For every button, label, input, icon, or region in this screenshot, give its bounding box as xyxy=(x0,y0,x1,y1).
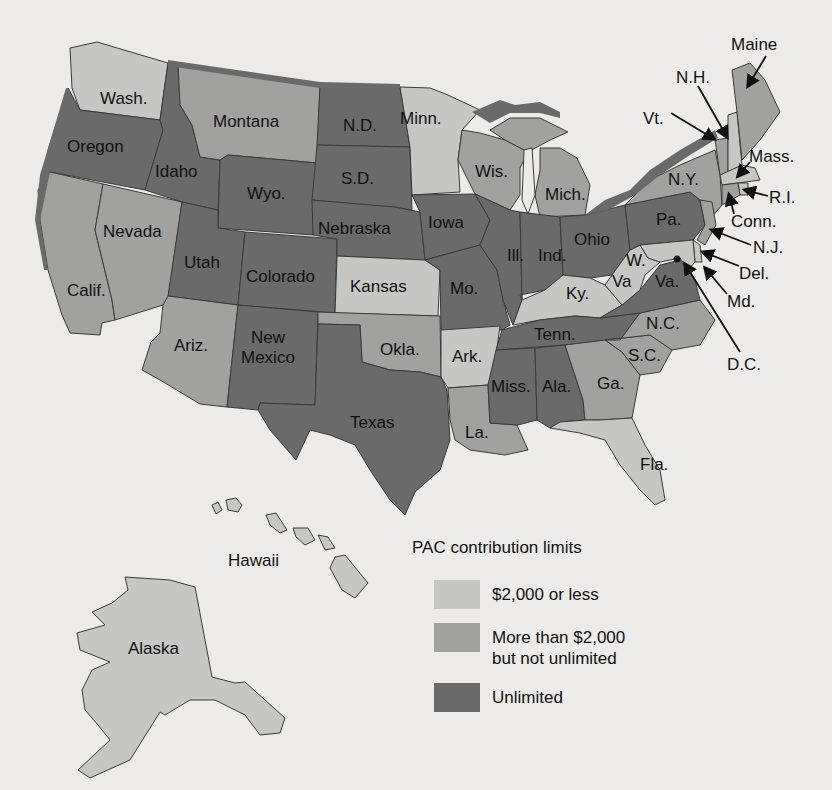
label-dc: D.C. xyxy=(727,355,761,374)
arrow-nj xyxy=(712,230,751,245)
swatch-mid xyxy=(434,623,480,652)
label-wash: Wash. xyxy=(100,89,148,108)
legend-item-low: $2,000 or less xyxy=(434,580,625,609)
label-maine: Maine xyxy=(731,35,777,54)
label-nj: N.J. xyxy=(753,238,783,257)
label-nc: N.C. xyxy=(646,314,680,333)
legend-label-low: $2,000 or less xyxy=(492,580,599,605)
legend-label-mid: More than $2,000 but not unlimited xyxy=(492,623,625,669)
label-ind: Ind. xyxy=(538,246,566,265)
label-mo: Mo. xyxy=(450,279,478,298)
label-del: Del. xyxy=(739,264,769,283)
label-okla: Okla. xyxy=(380,340,420,359)
label-tenn: Tenn. xyxy=(534,325,576,344)
label-conn: Conn. xyxy=(731,212,776,231)
label-wyo: Wyo. xyxy=(247,184,286,203)
state-washington[interactable] xyxy=(70,42,168,120)
label-utah: Utah xyxy=(184,253,220,272)
label-sc: S.C. xyxy=(628,346,661,365)
label-iowa: Iowa xyxy=(428,213,464,232)
label-nevada: Nevada xyxy=(103,222,162,241)
swatch-low xyxy=(434,580,480,609)
label-colorado: Colorado xyxy=(246,267,315,286)
label-nm-1: New xyxy=(251,328,286,347)
state-alaska[interactable] xyxy=(77,577,285,778)
label-nm-2: Mexico xyxy=(241,348,295,367)
arrow-del xyxy=(703,252,739,266)
label-idaho: Idaho xyxy=(155,162,198,181)
label-miss: Miss. xyxy=(491,377,531,396)
label-oregon: Oregon xyxy=(67,137,124,156)
legend-title: PAC contribution limits xyxy=(412,538,625,558)
dc-marker xyxy=(674,256,681,263)
label-ri: R.I. xyxy=(769,188,795,207)
label-ny: N.Y. xyxy=(668,170,699,189)
label-ky: Ky. xyxy=(566,284,589,303)
legend-label-unlimited: Unlimited xyxy=(492,683,563,708)
legend-item-mid: More than $2,000 but not unlimited xyxy=(434,623,625,669)
label-texas: Texas xyxy=(350,413,394,432)
label-vt: Vt. xyxy=(643,109,664,128)
label-montana: Montana xyxy=(213,112,280,131)
arrow-vt xyxy=(671,113,714,139)
label-nebraska: Nebraska xyxy=(318,219,391,238)
label-md: Md. xyxy=(727,292,755,311)
legend-item-unlimited: Unlimited xyxy=(434,683,625,712)
label-wis: Wis. xyxy=(475,162,508,181)
label-nh: N.H. xyxy=(676,68,710,87)
state-hawaii[interactable] xyxy=(212,498,368,598)
label-wva-1: W. xyxy=(626,251,646,270)
label-mich: Mich. xyxy=(545,185,586,204)
arrow-md xyxy=(705,268,727,294)
label-nd: N.D. xyxy=(343,116,377,135)
label-va: Va. xyxy=(655,272,679,291)
label-pa: Pa. xyxy=(656,210,682,229)
lake-michigan xyxy=(522,148,535,214)
label-wva-2: Va xyxy=(612,272,632,291)
label-mass: Mass. xyxy=(749,147,794,166)
swatch-unlimited xyxy=(434,683,480,712)
label-hawaii: Hawaii xyxy=(228,551,279,570)
label-la: La. xyxy=(465,423,489,442)
label-ohio: Ohio xyxy=(574,230,610,249)
label-ill: Ill. xyxy=(507,246,524,265)
label-alaska: Alaska xyxy=(128,639,180,658)
state-michigan[interactable] xyxy=(535,148,590,217)
legend: PAC contribution limits $2,000 or less M… xyxy=(412,538,625,726)
label-ga: Ga. xyxy=(597,374,624,393)
label-ariz: Ariz. xyxy=(174,336,208,355)
label-calif: Calif. xyxy=(67,281,106,300)
label-kansas: Kansas xyxy=(350,277,407,296)
label-ark: Ark. xyxy=(452,347,482,366)
label-sd: S.D. xyxy=(341,169,374,188)
arrow-nh xyxy=(698,86,727,137)
label-ala: Ala. xyxy=(542,377,571,396)
label-fla: Fla. xyxy=(640,455,668,474)
label-minn: Minn. xyxy=(400,109,442,128)
